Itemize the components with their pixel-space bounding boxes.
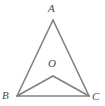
figure-canvas xyxy=(0,0,105,106)
segment-ac xyxy=(53,20,89,96)
vertex-label-b: B xyxy=(2,90,9,101)
vertex-label-c: C xyxy=(92,91,99,102)
vertex-label-o: O xyxy=(48,58,56,69)
vertex-label-a: A xyxy=(48,3,55,14)
inner-triangle-obc xyxy=(17,76,89,96)
geometry-figure: A B C O xyxy=(0,0,105,106)
